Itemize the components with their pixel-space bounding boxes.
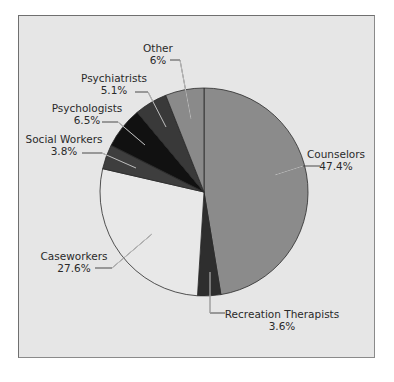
slice-label-value: 47.4% xyxy=(319,160,352,172)
pie-slice-counselors xyxy=(204,88,308,295)
slice-label-name: Other xyxy=(143,42,173,54)
slice-label-name: Psychiatrists xyxy=(81,72,147,84)
pie-slices xyxy=(100,88,308,296)
slice-label-value: 3.6% xyxy=(269,320,296,332)
slice-label-value: 3.8% xyxy=(51,145,78,157)
slice-label-name: Counselors xyxy=(307,148,365,160)
slice-label-value: 6.5% xyxy=(74,114,101,126)
slice-label-name: Caseworkers xyxy=(41,250,108,262)
slice-label-name: Recreation Therapists xyxy=(225,308,339,320)
slice-label-value: 27.6% xyxy=(57,262,90,274)
slice-label-value: 6% xyxy=(150,54,167,66)
slice-label-name: Social Workers xyxy=(26,133,103,145)
slice-label-value: 5.1% xyxy=(101,84,128,96)
pie-chart: Counselors47.4%Recreation Therapists3.6%… xyxy=(0,0,394,382)
slice-label-name: Psychologists xyxy=(52,102,123,114)
